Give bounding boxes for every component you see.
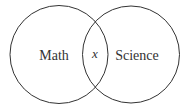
- math-label: Math: [39, 48, 69, 63]
- science-label: Science: [115, 48, 159, 63]
- venn-diagram: Math x Science: [0, 0, 188, 109]
- intersection-label: x: [91, 46, 98, 61]
